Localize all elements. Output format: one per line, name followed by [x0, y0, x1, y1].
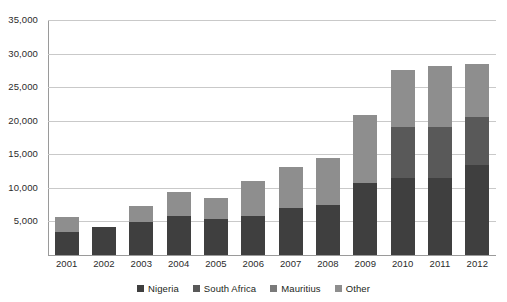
- y-axis-tick-label: 30,000: [8, 49, 38, 59]
- x-axis-line: [48, 255, 496, 256]
- legend-swatch-icon: [193, 285, 200, 292]
- bar-segment-nigeria-2006[interactable]: [241, 216, 265, 255]
- bar-segment-other-2010[interactable]: [391, 70, 415, 128]
- bar-segment-nigeria-2001[interactable]: [55, 232, 79, 255]
- bar-group-2011[interactable]: [428, 20, 452, 255]
- bar-segment-south-africa-2010[interactable]: [391, 127, 415, 177]
- bar-segment-other-2003[interactable]: [129, 206, 153, 222]
- chart-legend: NigeriaSouth AfricaMauritiusOther: [0, 283, 507, 294]
- bar-segment-nigeria-2004[interactable]: [167, 216, 191, 255]
- legend-swatch-icon: [270, 285, 277, 292]
- bar-group-2012[interactable]: [465, 20, 489, 255]
- bar-group-2009[interactable]: [353, 20, 377, 255]
- legend-item-south-africa[interactable]: South Africa: [193, 283, 256, 294]
- y-axis-tick-label: 10,000: [8, 183, 38, 193]
- bars-container: [48, 20, 496, 255]
- legend-label: Nigeria: [148, 283, 179, 294]
- bar-segment-other-2008[interactable]: [316, 158, 340, 205]
- bar-segment-nigeria-2011[interactable]: [428, 178, 452, 255]
- bar-segment-other-2009[interactable]: [353, 115, 377, 183]
- x-axis-tick-label: 2002: [84, 258, 124, 270]
- x-axis-tick-label: 2003: [121, 258, 161, 270]
- bar-segment-nigeria-2005[interactable]: [204, 219, 228, 255]
- stacked-bar-chart: 35,00030,00025,00020,00015,00010,0005,00…: [0, 0, 507, 302]
- legend-item-nigeria[interactable]: Nigeria: [137, 283, 179, 294]
- bar-segment-nigeria-2012[interactable]: [465, 165, 489, 255]
- x-axis-tick-label: 2001: [47, 258, 87, 270]
- bar-segment-other-2011[interactable]: [428, 66, 452, 127]
- legend-label: Other: [346, 283, 370, 294]
- x-axis-tick-label: 2009: [345, 258, 385, 270]
- x-axis-labels: 2001200220032004200520062007200820092010…: [48, 258, 496, 274]
- legend-item-mauritius[interactable]: Mauritius: [270, 283, 320, 294]
- x-axis-tick-label: 2012: [457, 258, 497, 270]
- y-axis-tick-label: 25,000: [8, 82, 38, 92]
- bar-segment-nigeria-2009[interactable]: [353, 183, 377, 255]
- bar-segment-nigeria-2003[interactable]: [129, 222, 153, 255]
- bar-group-2005[interactable]: [204, 20, 228, 255]
- bar-segment-other-2012[interactable]: [465, 64, 489, 117]
- legend-label: South Africa: [204, 283, 256, 294]
- legend-swatch-icon: [335, 285, 342, 292]
- y-axis-tick-label: 35,000: [8, 15, 38, 25]
- bar-group-2008[interactable]: [316, 20, 340, 255]
- y-axis-tick-label: 20,000: [8, 116, 38, 126]
- bar-segment-nigeria-2007[interactable]: [279, 208, 303, 255]
- bar-group-2004[interactable]: [167, 20, 191, 255]
- bar-segment-nigeria-2008[interactable]: [316, 205, 340, 255]
- bar-group-2003[interactable]: [129, 20, 153, 255]
- bar-segment-other-2005[interactable]: [204, 198, 228, 219]
- x-axis-tick-label: 2005: [196, 258, 236, 270]
- bar-segment-nigeria-2010[interactable]: [391, 178, 415, 255]
- x-axis-tick-label: 2008: [308, 258, 348, 270]
- bar-segment-other-2006[interactable]: [241, 181, 265, 216]
- legend-swatch-icon: [137, 285, 144, 292]
- bar-group-2007[interactable]: [279, 20, 303, 255]
- y-axis-tick-label: 15,000: [8, 149, 38, 159]
- bar-group-2001[interactable]: [55, 20, 79, 255]
- x-axis-tick-label: 2004: [159, 258, 199, 270]
- bar-segment-other-2001[interactable]: [55, 217, 79, 232]
- legend-item-other[interactable]: Other: [335, 283, 370, 294]
- bar-segment-south-africa-2012[interactable]: [465, 117, 489, 165]
- bar-segment-other-2004[interactable]: [167, 192, 191, 216]
- bar-group-2010[interactable]: [391, 20, 415, 255]
- x-axis-tick-label: 2007: [271, 258, 311, 270]
- bar-segment-south-africa-2011[interactable]: [428, 127, 452, 177]
- bar-group-2002[interactable]: [92, 20, 116, 255]
- y-axis-tick-label: 5,000: [14, 216, 38, 226]
- bar-segment-nigeria-2002[interactable]: [92, 227, 116, 255]
- bar-segment-other-2007[interactable]: [279, 167, 303, 208]
- x-axis-tick-label: 2006: [233, 258, 273, 270]
- x-axis-tick-label: 2010: [383, 258, 423, 270]
- legend-label: Mauritius: [281, 283, 320, 294]
- y-axis-labels: 35,00030,00025,00020,00015,00010,0005,00…: [0, 0, 44, 302]
- bar-group-2006[interactable]: [241, 20, 265, 255]
- x-axis-tick-label: 2011: [420, 258, 460, 270]
- plot-area: [48, 20, 496, 255]
